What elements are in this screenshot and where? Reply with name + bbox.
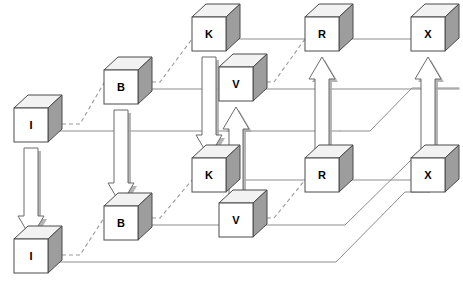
cube-node-X_mid[interactable]: X <box>411 145 459 192</box>
cube-node-K_mid[interactable]: K <box>192 145 240 192</box>
isometric-network-diagram: IIBBKKVVRRXX <box>0 0 463 297</box>
cube-front-face <box>104 70 138 104</box>
cube-front-face <box>192 17 226 51</box>
cube-front-face <box>411 158 445 192</box>
cube-front-face <box>192 158 226 192</box>
cube-front-face <box>219 67 253 101</box>
cube-front-face <box>14 239 48 273</box>
cube-front-face <box>305 17 339 51</box>
diagram-canvas: IIBBKKVVRRXX <box>0 0 463 297</box>
cube-node-I_bottom[interactable]: I <box>14 226 62 273</box>
cube-node-I_top[interactable]: I <box>14 95 62 142</box>
cube-front-face <box>14 108 48 142</box>
cube-front-face <box>104 206 138 240</box>
cube-node-X_top[interactable]: X <box>411 4 459 51</box>
cube-node-B_bottom[interactable]: B <box>104 193 152 240</box>
cube-node-V_bottom[interactable]: V <box>219 190 267 237</box>
cube-node-V_top[interactable]: V <box>219 54 267 101</box>
cube-front-face <box>305 158 339 192</box>
cube-node-R_top[interactable]: R <box>305 4 353 51</box>
cube-node-R_mid[interactable]: R <box>305 145 353 192</box>
cube-node-B_top[interactable]: B <box>104 57 152 104</box>
cube-front-face <box>219 203 253 237</box>
cube-front-face <box>411 17 445 51</box>
cube-node-K_top[interactable]: K <box>192 4 240 51</box>
